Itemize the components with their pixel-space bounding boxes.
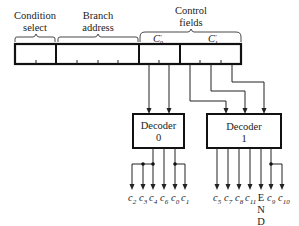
condition-select-label-line2: select xyxy=(23,22,47,33)
control-fields-label-line2: fields xyxy=(179,17,202,28)
decoder-0-number: 0 xyxy=(156,132,161,143)
branch-address-label-line2: address xyxy=(82,22,114,33)
output-c4: c4 xyxy=(149,192,158,206)
decoder-0-label: Decoder xyxy=(141,120,177,131)
output-c11: c11 xyxy=(245,192,256,206)
decoder1-output-labels: c5 c7 c8 c11 E N D c9 c10 xyxy=(213,192,290,226)
decoder1-output-lines xyxy=(215,148,285,190)
decoder-1-number: 1 xyxy=(241,133,246,144)
output-end-n: N xyxy=(257,204,265,215)
output-end-d: D xyxy=(257,216,265,226)
output-c0: c0 xyxy=(171,192,180,206)
output-c9: c9 xyxy=(267,192,276,206)
output-c5: c5 xyxy=(213,192,222,206)
output-c7: c7 xyxy=(224,192,233,206)
c0-to-decoder0-lines xyxy=(147,64,172,114)
output-c6: c6 xyxy=(160,192,169,206)
decoder-1-label: Decoder xyxy=(226,121,262,132)
output-c2: c2 xyxy=(128,192,137,206)
microprogram-control-diagram: Condition select Branch address Control … xyxy=(0,0,299,226)
c1-to-decoder1-lines xyxy=(190,64,267,114)
branch-address-label-line1: Branch xyxy=(83,10,114,21)
branch-address-brace xyxy=(58,34,138,42)
output-c10: c10 xyxy=(278,192,290,206)
output-c1: c1 xyxy=(181,192,189,206)
microinstruction-register xyxy=(15,44,241,64)
decoder0-output-lines xyxy=(130,148,188,190)
control-fields-label-line1: Control xyxy=(175,5,207,16)
condition-select-label-line1: Condition xyxy=(14,10,57,21)
output-c3: c3 xyxy=(139,192,148,206)
condition-select-brace xyxy=(15,34,55,42)
decoder0-output-labels: c2 c3 c4 c6 c0 c1 xyxy=(128,192,189,206)
output-end-e: E xyxy=(258,192,264,203)
output-c8: c8 xyxy=(235,192,244,206)
